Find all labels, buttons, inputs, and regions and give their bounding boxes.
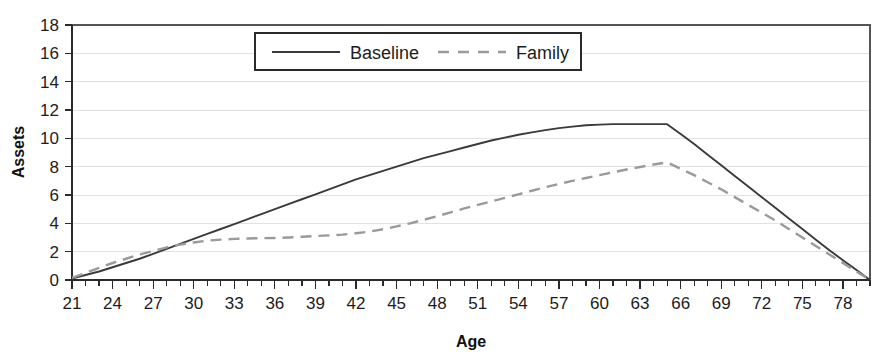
x-tick-label: 42 xyxy=(347,294,366,313)
x-tick-label: 48 xyxy=(428,294,447,313)
legend-label-family: Family xyxy=(516,43,569,63)
x-tick-label: 39 xyxy=(306,294,325,313)
x-axis-title: Age xyxy=(456,333,486,350)
x-tick-label: 66 xyxy=(671,294,690,313)
x-tick-label: 33 xyxy=(225,294,244,313)
figure-bottom-margin xyxy=(0,356,887,364)
x-tick-label: 36 xyxy=(265,294,284,313)
x-tick-label: 45 xyxy=(387,294,406,313)
x-tick-label: 72 xyxy=(752,294,771,313)
x-tick-label: 54 xyxy=(509,294,528,313)
y-tick-label: 18 xyxy=(40,16,59,35)
series-line-family xyxy=(72,162,870,280)
x-axis-ticks-group xyxy=(72,280,870,289)
x-tick-label: 21 xyxy=(63,294,82,313)
y-tick-label: 2 xyxy=(50,243,59,262)
x-tick-label: 27 xyxy=(144,294,163,313)
chart-figure: 024681012141618 212427303336394245485154… xyxy=(0,0,887,364)
y-tick-label: 10 xyxy=(40,129,59,148)
y-tick-label: 6 xyxy=(50,186,59,205)
x-tick-label: 75 xyxy=(793,294,812,313)
y-axis-title: Assets xyxy=(10,126,27,179)
x-tick-label: 30 xyxy=(184,294,203,313)
x-tick-label: 63 xyxy=(631,294,650,313)
x-tick-label: 57 xyxy=(549,294,568,313)
x-tick-label: 69 xyxy=(712,294,731,313)
data-series-group xyxy=(72,124,870,280)
y-axis-tick-labels-group: 024681012141618 xyxy=(40,16,59,290)
x-tick-label: 60 xyxy=(590,294,609,313)
x-axis-tick-labels-group: 2124273033363942454851545760636669727578 xyxy=(63,294,853,313)
assets-by-age-line-chart: 024681012141618 212427303336394245485154… xyxy=(0,0,887,364)
y-tick-label: 14 xyxy=(40,73,59,92)
y-tick-label: 8 xyxy=(50,158,59,177)
legend-label-baseline: Baseline xyxy=(350,43,419,63)
x-tick-label: 24 xyxy=(103,294,122,313)
y-tick-label: 0 xyxy=(50,271,59,290)
chart-legend: Baseline Family xyxy=(255,33,581,70)
x-tick-label: 51 xyxy=(468,294,487,313)
y-tick-label: 4 xyxy=(50,214,59,233)
y-tick-label: 12 xyxy=(40,101,59,120)
y-axis-ticks-group xyxy=(65,25,72,280)
y-tick-label: 16 xyxy=(40,44,59,63)
series-line-baseline xyxy=(72,124,870,280)
x-tick-label: 78 xyxy=(833,294,852,313)
